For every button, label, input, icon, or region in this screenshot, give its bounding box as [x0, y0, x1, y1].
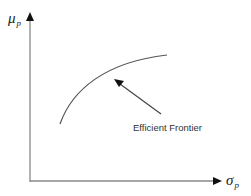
diagram-canvas	[0, 0, 251, 196]
x-axis-arrow-icon	[213, 177, 222, 185]
y-axis-symbol: μ	[8, 10, 16, 26]
efficient-frontier-label: Efficient Frontier	[133, 122, 202, 133]
x-axis-label: σp	[226, 172, 239, 190]
x-axis-symbol: σ	[226, 172, 233, 188]
y-axis-arrow-icon	[26, 12, 34, 21]
y-axis-subscript: p	[17, 18, 22, 28]
x-axis-subscript: p	[234, 180, 239, 190]
y-axis-label: μp	[8, 10, 21, 28]
efficient-frontier-curve	[60, 55, 167, 124]
annotation-arrow	[120, 84, 161, 114]
